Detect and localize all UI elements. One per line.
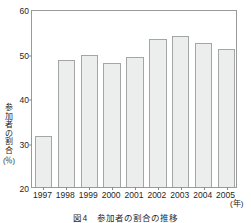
- figure-caption-number: 図4: [73, 213, 87, 223]
- x-tick-label-2004: 2004: [193, 190, 212, 200]
- bar-2004: [195, 43, 212, 187]
- y-tick-label-60: 60: [20, 6, 32, 16]
- x-axis-unit: (年): [230, 197, 243, 208]
- figure-caption-text: 参加者の割合の推移: [97, 213, 178, 223]
- bar-2005: [218, 49, 235, 187]
- x-tick-label-1997: 1997: [33, 190, 52, 200]
- x-tick-label-2002: 2002: [147, 190, 166, 200]
- bar-2002: [149, 39, 166, 187]
- y-axis-unit: (％): [2, 156, 16, 165]
- bar-1997: [35, 136, 52, 187]
- x-tick-label-2000: 2000: [102, 190, 121, 200]
- plot-area: 2030405060: [31, 10, 237, 188]
- x-tick-label-2003: 2003: [170, 190, 189, 200]
- y-axis-title: 参 加 者 の 割 合 (％): [2, 104, 16, 165]
- bar-1999: [81, 55, 98, 187]
- x-tick-label-1998: 1998: [56, 190, 75, 200]
- x-tick-label-2001: 2001: [125, 190, 144, 200]
- bar-2003: [172, 36, 189, 187]
- bar-2000: [103, 63, 120, 187]
- bar-series: [32, 11, 236, 187]
- y-tick-label-20: 20: [20, 184, 32, 194]
- bar-1998: [58, 60, 75, 187]
- x-tick-label-1999: 1999: [79, 190, 98, 200]
- y-axis-title-char-5: 合: [2, 147, 16, 156]
- bar-2001: [126, 57, 143, 187]
- figure-container: 参 加 者 の 割 合 (％) 2030405060 1997199819992…: [0, 0, 251, 223]
- figure-caption: 図4 参加者の割合の推移: [0, 211, 251, 223]
